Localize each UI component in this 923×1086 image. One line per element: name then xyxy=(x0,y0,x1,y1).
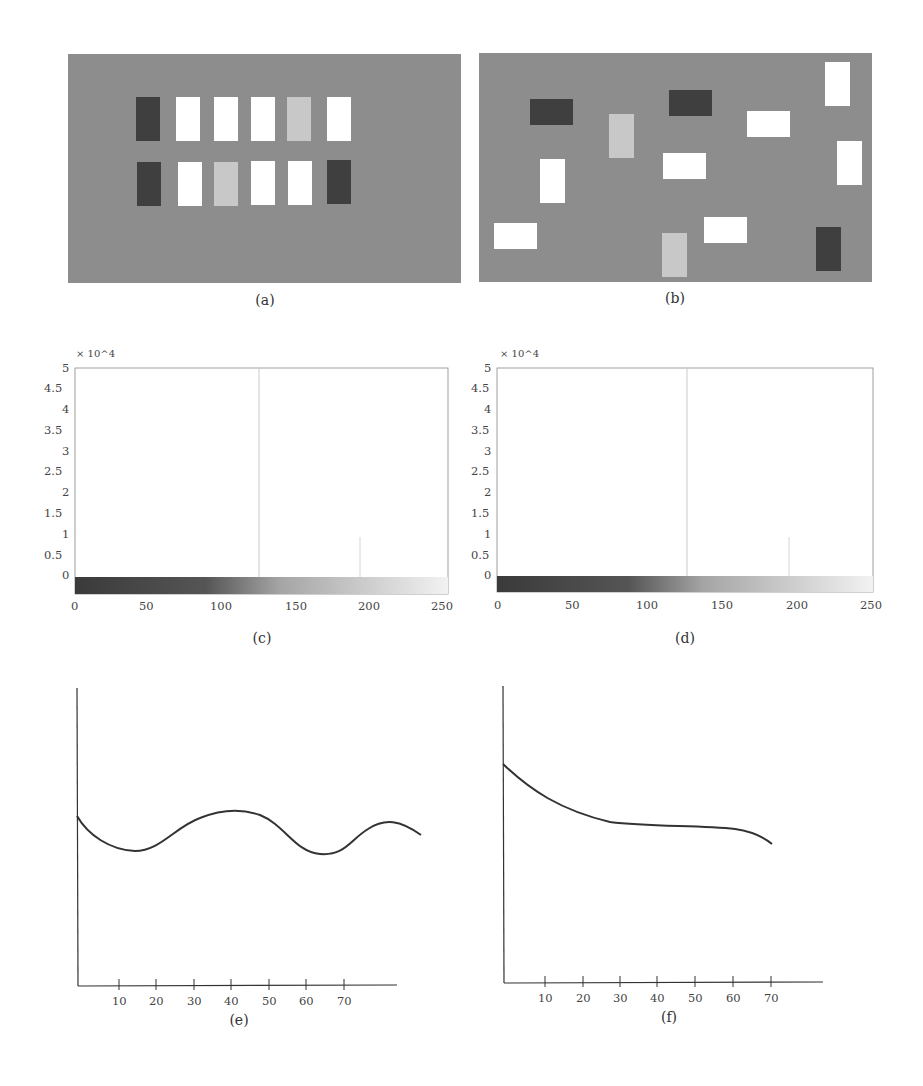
y-tick: 3.5 xyxy=(471,423,489,437)
x-tick: 200 xyxy=(358,599,380,613)
rect xyxy=(540,159,565,203)
y-tick: 1.5 xyxy=(471,506,489,520)
y-tick: 5 xyxy=(484,361,491,375)
x-tick: 60 xyxy=(299,994,314,1008)
rect xyxy=(178,162,202,206)
x-tick: 0 xyxy=(494,598,501,612)
x-tick: 20 xyxy=(149,994,164,1008)
rect xyxy=(663,153,706,179)
y-tick: 3.5 xyxy=(44,423,62,437)
y-tick: 5 xyxy=(62,361,69,375)
y-multiplier-c: × 10^4 xyxy=(76,348,115,359)
y-multiplier-d: × 10^4 xyxy=(500,348,539,359)
y-tick: 4.5 xyxy=(471,381,489,395)
y-tick: 3 xyxy=(484,444,491,458)
x-tick: 100 xyxy=(636,598,658,612)
rect xyxy=(176,97,200,141)
y-tick: 3 xyxy=(62,444,69,458)
x-tick: 200 xyxy=(786,598,808,612)
y-tick: 4 xyxy=(62,402,69,416)
rect xyxy=(662,233,687,277)
rect xyxy=(136,97,160,141)
rect xyxy=(288,161,312,205)
rect xyxy=(669,90,712,116)
rect xyxy=(747,111,790,137)
x-tick: 150 xyxy=(711,598,733,612)
y-tick: 2.5 xyxy=(44,464,62,478)
y-tick: 4.5 xyxy=(44,381,62,395)
caption-e: (e) xyxy=(209,1012,269,1028)
rect xyxy=(494,223,537,249)
x-tick: 100 xyxy=(210,599,232,613)
x-tick: 50 xyxy=(262,994,277,1008)
y-tick: 1 xyxy=(484,527,491,541)
caption-c: (c) xyxy=(232,630,292,646)
y-tick: 2 xyxy=(62,485,69,499)
rect xyxy=(251,161,275,205)
x-tick: 250 xyxy=(860,598,882,612)
y-tick: 4 xyxy=(484,402,491,416)
rect xyxy=(825,62,850,106)
rect xyxy=(251,97,275,141)
rect xyxy=(137,162,161,206)
y-tick: 2 xyxy=(484,485,491,499)
rect xyxy=(287,97,311,141)
y-tick: 0 xyxy=(62,568,69,582)
y-tick: 1.5 xyxy=(44,506,62,520)
x-tick: 50 xyxy=(688,991,703,1005)
x-tick: 70 xyxy=(337,994,352,1008)
rect xyxy=(327,97,351,141)
y-tick: 0 xyxy=(484,568,491,582)
caption-b: (b) xyxy=(645,290,705,306)
x-tick: 50 xyxy=(565,598,580,612)
x-tick: 150 xyxy=(285,599,307,613)
rect xyxy=(816,227,841,271)
y-tick: 1 xyxy=(62,527,69,541)
caption-d: (d) xyxy=(655,630,715,646)
x-tick: 30 xyxy=(613,991,628,1005)
x-tick: 10 xyxy=(538,991,553,1005)
rect xyxy=(837,141,862,185)
rect xyxy=(609,114,634,158)
y-tick: 0.5 xyxy=(44,548,62,562)
caption-a: (a) xyxy=(235,292,295,308)
x-tick: 70 xyxy=(764,991,779,1005)
y-tick: 0.5 xyxy=(471,548,489,562)
x-tick: 30 xyxy=(187,994,202,1008)
rect xyxy=(530,99,573,125)
panel-b-image xyxy=(479,53,872,282)
y-tick: 2.5 xyxy=(471,464,489,478)
x-tick: 60 xyxy=(726,991,741,1005)
rect xyxy=(327,160,351,204)
x-tick: 20 xyxy=(576,991,591,1005)
x-tick: 40 xyxy=(650,991,665,1005)
x-tick: 10 xyxy=(112,994,127,1008)
x-tick: 40 xyxy=(224,994,239,1008)
rect xyxy=(214,97,238,141)
panel-a-image xyxy=(68,54,461,283)
caption-f: (f) xyxy=(639,1009,699,1025)
x-tick: 0 xyxy=(71,599,78,613)
rect xyxy=(704,217,747,243)
x-tick: 250 xyxy=(431,599,453,613)
rect xyxy=(214,162,238,206)
x-tick: 50 xyxy=(139,599,154,613)
